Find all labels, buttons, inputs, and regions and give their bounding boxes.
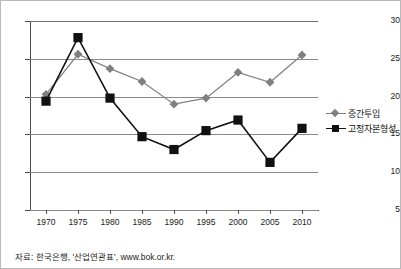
legend: 중간투입 고정자본형성 [326,106,400,136]
data-point-0-1990 [170,100,179,109]
legend-diamond-marker-icon [326,108,346,120]
legend-label-1: 고정자본형성 [346,122,396,135]
legend-square-marker-icon [326,123,346,135]
data-point-1-1980 [105,94,114,103]
data-point-1-2000 [233,115,242,124]
data-point-1-1975 [73,33,82,42]
data-point-1-1985 [137,132,146,141]
legend-label-0: 중간투입 [346,107,380,120]
data-point-0-1980 [106,64,115,73]
series-0 [42,50,307,109]
data-point-1-2010 [297,124,306,133]
data-point-1-1970 [41,97,50,106]
series-line-0 [46,54,302,104]
legend-item-0[interactable]: 중간투입 [326,106,400,121]
data-point-1-2005 [265,158,274,167]
legend-item-1[interactable]: 고정자본형성 [326,121,400,136]
data-point-0-1985 [138,77,147,86]
chart-figure: 51015202530 1970197519801985199019952000… [0,0,401,269]
data-point-1-1995 [201,126,210,135]
source-note: 자료: 한국은행, '산업연관표', www.bok.or.kr. [15,250,175,262]
data-point-1-1990 [169,145,178,154]
